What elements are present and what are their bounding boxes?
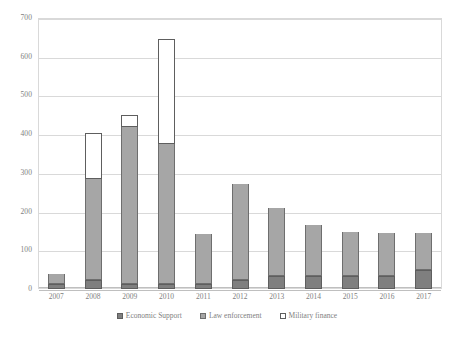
- legend-swatch-icon: [280, 313, 286, 319]
- x-axis-tick-label: 2011: [185, 292, 222, 301]
- bar-segment-law-enforcement[interactable]: [378, 233, 395, 276]
- bar-column[interactable]: [111, 18, 148, 289]
- x-axis-tick-label: 2009: [111, 292, 148, 301]
- legend-item[interactable]: Economic Support: [117, 311, 182, 320]
- bar-column[interactable]: [405, 18, 442, 289]
- bar-stack[interactable]: [305, 225, 322, 289]
- bar-stack[interactable]: [85, 133, 102, 289]
- stacked-bar-chart: 0100200300400500600700 20072008200920102…: [0, 0, 454, 339]
- x-axis-tick-label: 2014: [295, 292, 332, 301]
- y-axis-tick-label: 700: [2, 13, 32, 22]
- bar-column[interactable]: [369, 18, 406, 289]
- bar-stack[interactable]: [342, 232, 359, 289]
- bar-segment-law-enforcement[interactable]: [232, 184, 249, 281]
- legend-label: Military finance: [289, 311, 338, 320]
- bar-stack[interactable]: [232, 184, 249, 289]
- bar-segment-economic-support[interactable]: [415, 270, 432, 289]
- bar-column[interactable]: [222, 18, 259, 289]
- bar-segment-law-enforcement[interactable]: [121, 127, 138, 284]
- bar-segment-economic-support[interactable]: [268, 276, 285, 289]
- bar-segment-military-finance[interactable]: [85, 133, 102, 179]
- bar-column[interactable]: [258, 18, 295, 289]
- x-axis-tick-label: 2010: [148, 292, 185, 301]
- legend-item[interactable]: Law enforcement: [200, 311, 262, 320]
- bars-container: [38, 18, 442, 289]
- bar-segment-law-enforcement[interactable]: [342, 232, 359, 277]
- x-axis-tick-label: 2015: [332, 292, 369, 301]
- x-axis-tick-label: 2007: [38, 292, 75, 301]
- x-axis-tick-label: 2012: [222, 292, 259, 301]
- bar-segment-economic-support[interactable]: [342, 276, 359, 289]
- y-axis-tick-label: 500: [2, 90, 32, 99]
- bar-column[interactable]: [332, 18, 369, 289]
- bar-column[interactable]: [148, 18, 185, 289]
- x-axis-tick-label: 2017: [405, 292, 442, 301]
- bar-segment-law-enforcement[interactable]: [48, 274, 65, 284]
- bar-segment-law-enforcement[interactable]: [415, 233, 432, 270]
- bar-segment-economic-support[interactable]: [85, 280, 102, 289]
- y-axis-tick-label: 300: [2, 168, 32, 177]
- bar-segment-law-enforcement[interactable]: [195, 234, 212, 284]
- bar-stack[interactable]: [48, 274, 65, 289]
- x-axis-labels: 2007200820092010201120122013201420152016…: [38, 292, 442, 301]
- y-axis-tick-label: 100: [2, 245, 32, 254]
- bar-segment-economic-support[interactable]: [305, 276, 322, 289]
- bar-stack[interactable]: [121, 115, 138, 289]
- legend-swatch-icon: [200, 313, 206, 319]
- bar-segment-law-enforcement[interactable]: [158, 144, 175, 284]
- y-axis-tick-label: 200: [2, 207, 32, 216]
- legend-label: Economic Support: [126, 311, 182, 320]
- gridline: [39, 290, 441, 291]
- bar-segment-military-finance[interactable]: [121, 115, 138, 127]
- bar-column[interactable]: [38, 18, 75, 289]
- bar-segment-military-finance[interactable]: [158, 39, 175, 144]
- bar-stack[interactable]: [195, 234, 212, 289]
- bar-segment-economic-support[interactable]: [232, 280, 249, 289]
- y-axis-tick-label: 600: [2, 52, 32, 61]
- bar-segment-economic-support[interactable]: [121, 284, 138, 289]
- y-axis-tick-label: 400: [2, 129, 32, 138]
- bar-segment-economic-support[interactable]: [378, 276, 395, 289]
- bar-stack[interactable]: [158, 39, 175, 289]
- bar-stack[interactable]: [415, 233, 432, 289]
- bar-segment-law-enforcement[interactable]: [305, 225, 322, 276]
- x-axis-tick-label: 2008: [75, 292, 112, 301]
- x-axis-tick-label: 2016: [369, 292, 406, 301]
- bar-segment-economic-support[interactable]: [195, 284, 212, 289]
- bar-stack[interactable]: [378, 233, 395, 289]
- chart-legend: Economic SupportLaw enforcementMilitary …: [0, 311, 454, 320]
- bar-column[interactable]: [75, 18, 112, 289]
- bar-segment-law-enforcement[interactable]: [268, 208, 285, 276]
- x-axis-tick-label: 2013: [258, 292, 295, 301]
- bar-column[interactable]: [295, 18, 332, 289]
- y-axis-tick-label: 0: [2, 284, 32, 293]
- bar-column[interactable]: [185, 18, 222, 289]
- legend-label: Law enforcement: [209, 311, 262, 320]
- legend-item[interactable]: Military finance: [280, 311, 338, 320]
- legend-swatch-icon: [117, 313, 123, 319]
- bar-segment-economic-support[interactable]: [158, 284, 175, 289]
- bar-segment-law-enforcement[interactable]: [85, 179, 102, 280]
- bar-stack[interactable]: [268, 208, 285, 289]
- bar-segment-economic-support[interactable]: [48, 284, 65, 289]
